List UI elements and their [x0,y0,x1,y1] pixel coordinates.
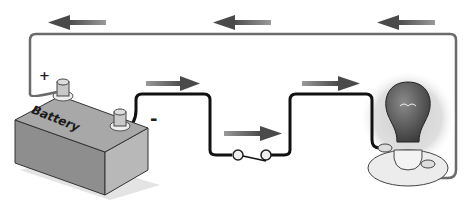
current-arrow-right-1 [146,76,200,91]
current-arrow-left-3 [377,15,435,30]
negative-terminal-label: - [150,108,157,129]
bottom-wire [125,94,386,155]
positive-terminal-label: + [39,68,50,83]
current-arrow-right-2 [224,126,282,141]
circuit-diagram [0,0,476,212]
current-arrow-left-2 [213,15,271,30]
current-arrow-right-3 [302,76,360,91]
current-arrow-left-1 [48,15,106,30]
switch [233,150,271,161]
